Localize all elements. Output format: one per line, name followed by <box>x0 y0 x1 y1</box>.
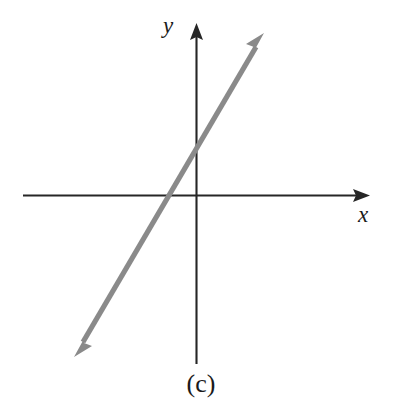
y-axis-label: y <box>163 14 173 37</box>
coordinate-plane-plot <box>0 0 402 409</box>
figure-caption: (c) <box>0 371 402 397</box>
figure-root: y x (c) <box>0 0 402 409</box>
x-axis-label: x <box>358 203 368 226</box>
